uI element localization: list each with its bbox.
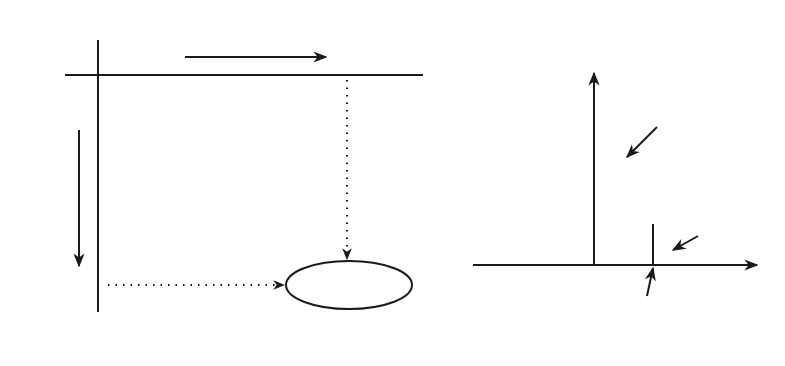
diagram-canvas [0, 0, 785, 366]
normal-distribution-plot [0, 0, 757, 296]
curve-label-arrow-icon [627, 127, 657, 157]
result-cell-ellipse [286, 261, 412, 309]
tail-area-arrow-icon [673, 236, 698, 250]
table-lookup-diagram [65, 40, 423, 312]
critical-value-arrow-icon [647, 268, 653, 296]
